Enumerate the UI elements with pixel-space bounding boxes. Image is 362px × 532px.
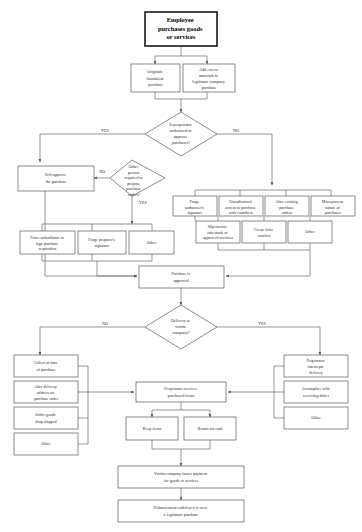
edge-label-other-person-yes: YES: [139, 200, 148, 205]
node-keep-items[interactable]: Keep items: [126, 417, 178, 440]
edge-label-authorized-yes: YES: [101, 128, 110, 133]
node-unauthorized-access-label: Unauthorized access to purchase order nu…: [225, 199, 256, 215]
node-purchase-approved[interactable]: Purchase is approved: [139, 266, 224, 288]
node-forge-preparer[interactable]: Forge preparer's signature: [78, 231, 126, 254]
node-keep-items-label: Keep items: [143, 426, 162, 431]
node-other-right[interactable]: Other: [288, 221, 332, 243]
node-forge-authorizer[interactable]: Forge authorizer's signature: [173, 196, 217, 216]
connector-delivery-yes: [217, 327, 320, 355]
node-add-excess[interactable]: Add excess materials to legitimate compa…: [183, 64, 235, 92]
node-force-subordinate[interactable]: Force subordinate to sign purchase requi…: [20, 231, 75, 254]
node-disbursement-coded[interactable]: Disbursement coded as if it were a legit…: [118, 500, 244, 522]
node-alter-existing[interactable]: Alter existing purchase orders: [265, 196, 309, 216]
connector-authorized-no: [217, 134, 272, 185]
node-alter-delivery-label: Alter delivery address on purchase order: [34, 384, 59, 401]
node-issues-payment[interactable]: Victim company issues payment for goods …: [118, 466, 244, 488]
connector-left-to-approved: [97, 261, 137, 276]
node-drop-shipped[interactable]: Order goods drop shipped: [14, 407, 78, 429]
node-misrepresent-label: Misrepresent nature of purchases: [322, 199, 344, 215]
node-other-yes-branch[interactable]: Other: [284, 407, 348, 429]
node-misrepresent[interactable]: Misrepresent nature of purchases: [311, 196, 355, 216]
node-other-left[interactable]: Other: [129, 231, 174, 254]
flowchart-canvas: Employee purchases goods or services Ori…: [0, 0, 362, 532]
node-other-person-decision[interactable]: Other person required to prepare purchas…: [110, 160, 165, 196]
node-root[interactable]: Employee purchases goods or services: [145, 12, 217, 46]
edge-label-delivery-yes: YES: [258, 321, 267, 326]
node-accomplice[interactable]: Accomplice with receiving duties: [284, 381, 348, 403]
node-intercepts-delivery[interactable]: Perpetrator intercepts delivery: [284, 355, 348, 377]
connector-authorized-yes: [40, 134, 145, 162]
node-receives-items[interactable]: Perpetrator receives purchased items: [136, 382, 226, 402]
connector-right-to-approved: [226, 250, 310, 276]
node-return-for-cash-label: Return for cash: [197, 426, 222, 431]
node-alter-delivery[interactable]: Alter delivery address on purchase order: [14, 381, 78, 403]
node-delivery-decision[interactable]: Delivery to victim company?: [145, 305, 217, 349]
edge-label-other-person-no: NO: [99, 169, 105, 174]
node-other-yes-branch-label: Other: [311, 415, 321, 420]
node-other-right-label: Other: [305, 229, 315, 234]
node-authorized-decision[interactable]: Is perpetrator authorized to approve pur…: [145, 112, 217, 156]
node-self-approve[interactable]: Self-approve the purchase: [18, 166, 94, 191]
edge-label-delivery-no: NO: [102, 321, 108, 326]
node-originate-fraudulent-label: Originate fraudulent purchase: [147, 69, 165, 87]
connector-delivery-no: [40, 327, 145, 355]
node-other-no-branch[interactable]: Other: [14, 433, 78, 455]
node-originate-fraudulent[interactable]: Originate fraudulent purchase: [131, 64, 180, 92]
node-other-no-branch-label: Other: [41, 441, 51, 446]
node-return-for-cash[interactable]: Return for cash: [184, 417, 236, 440]
node-unauthorized-access[interactable]: Unauthorized access to purchase order nu…: [219, 196, 263, 216]
node-slip-invoice[interactable]: Slip invoice into stack of approved invo…: [196, 221, 240, 243]
node-other-left-label: Other: [147, 240, 157, 245]
node-collect-at-time[interactable]: Collect at time of purchase: [14, 355, 78, 377]
node-create-voucher[interactable]: Create false voucher: [242, 221, 286, 243]
edge-label-authorized-no: NO: [233, 128, 239, 133]
flowchart-page: Employee purchases goods or services Ori…: [0, 0, 362, 532]
